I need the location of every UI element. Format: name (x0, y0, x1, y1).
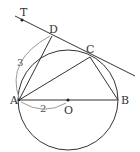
label-a: A (9, 94, 19, 107)
geometry-diagram: T D C A O B 3 2 (0, 0, 140, 152)
label-c: C (86, 43, 94, 56)
point-o-dot (66, 98, 69, 101)
label-d: D (49, 23, 58, 36)
dimension-label-ad: 3 (17, 57, 23, 68)
label-b: B (121, 94, 129, 107)
point-a-dot (18, 99, 20, 101)
dimension-label-ao: 2 (40, 103, 46, 114)
tangent-line (15, 16, 135, 76)
segment-cb (90, 57, 118, 100)
label-t: T (20, 6, 28, 19)
label-o: O (64, 104, 73, 117)
